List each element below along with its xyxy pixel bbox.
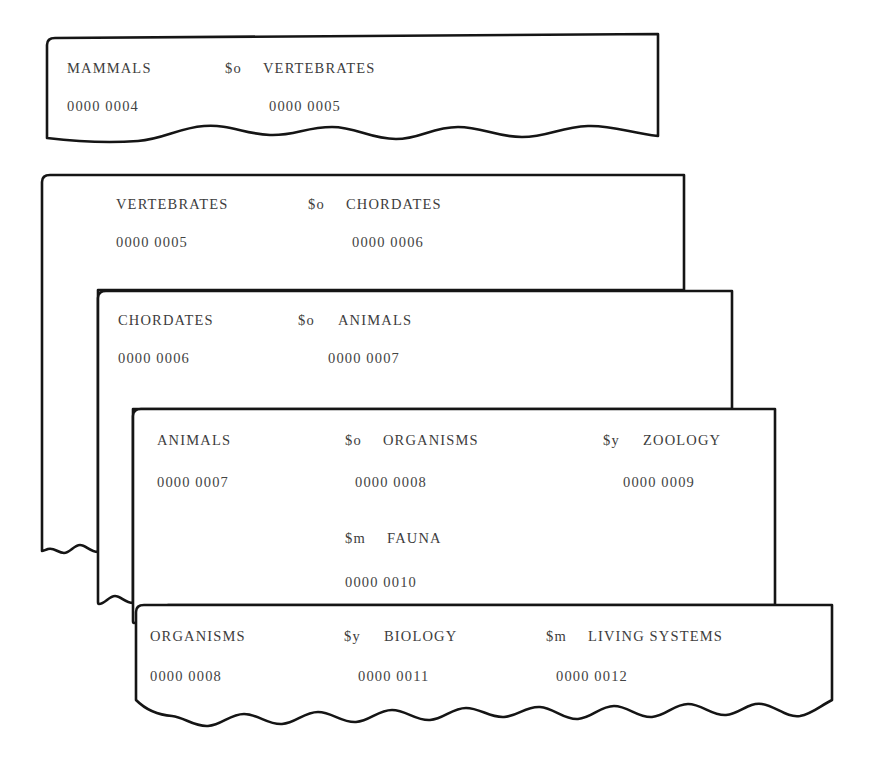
card-5-term-number: 0000 0008	[150, 668, 222, 685]
card-4-related-term-organisms: ORGANISMS	[383, 432, 479, 449]
card-1-related-term-number: 0000 0005	[269, 98, 341, 115]
card-2-term-number: 0000 0005	[116, 234, 188, 251]
card-3-term: CHORDATES	[118, 312, 214, 329]
card-5-term: ORGANISMS	[150, 628, 246, 645]
card-5-living-systems-number: 0000 0012	[556, 668, 628, 685]
card-5-subfield-code-related: $y	[344, 628, 361, 645]
card-4-term: ANIMALS	[157, 432, 231, 449]
card-4-subfield-code-member: $m	[345, 530, 366, 547]
card-4-term-number: 0000 0007	[157, 474, 229, 491]
card-2-subfield-code-broader: $o	[308, 196, 325, 213]
card-1-subfield-code-broader: $o	[225, 60, 242, 77]
card-1-term-number: 0000 0004	[67, 98, 139, 115]
record-card-stack-figure: MAMMALS $o VERTEBRATES 0000 0004 0000 00…	[0, 0, 869, 772]
record-card-vertebrates[interactable]: VERTEBRATES $o CHORDATES 0000 0005 0000 …	[42, 196, 684, 286]
card-4-zoology-number: 0000 0009	[623, 474, 695, 491]
card-4-related-term-fauna: FAUNA	[387, 530, 442, 547]
card-2-related-term-number: 0000 0006	[352, 234, 424, 251]
card-4-organisms-number: 0000 0008	[355, 474, 427, 491]
card-3-related-term-number: 0000 0007	[328, 350, 400, 367]
card-4-related-term-zoology: ZOOLOGY	[643, 432, 721, 449]
card-1-related-term-vertebrates: VERTEBRATES	[263, 60, 375, 77]
card-5-related-term-living-systems: LIVING SYSTEMS	[588, 628, 723, 645]
record-card-organisms[interactable]: ORGANISMS $y BIOLOGY $m LIVING SYSTEMS 0…	[136, 628, 832, 708]
card-4-subfield-code-related: $y	[603, 432, 620, 449]
card-4-fauna-number: 0000 0010	[345, 574, 417, 591]
card-2-related-term-chordates: CHORDATES	[346, 196, 442, 213]
card-4-subfield-code-broader: $o	[345, 432, 362, 449]
card-5-biology-number: 0000 0011	[358, 668, 429, 685]
card-5-related-term-biology: BIOLOGY	[384, 628, 457, 645]
record-card-chordates[interactable]: CHORDATES $o ANIMALS 0000 0006 0000 0007	[98, 312, 732, 402]
card-3-subfield-code-broader: $o	[298, 312, 315, 329]
card-5-subfield-code-member: $m	[546, 628, 567, 645]
record-card-mammals[interactable]: MAMMALS $o VERTEBRATES 0000 0004 0000 00…	[47, 60, 658, 138]
card-2-term: VERTEBRATES	[116, 196, 228, 213]
card-3-related-term-animals: ANIMALS	[338, 312, 412, 329]
card-1-term: MAMMALS	[67, 60, 152, 77]
record-card-animals[interactable]: ANIMALS $o ORGANISMS $y ZOOLOGY 0000 000…	[133, 432, 775, 604]
card-3-term-number: 0000 0006	[118, 350, 190, 367]
